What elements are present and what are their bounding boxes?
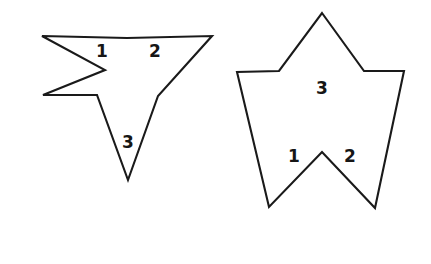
right-region-label-1: 1: [288, 146, 300, 166]
right-region-label-3: 3: [316, 78, 328, 98]
left-region-label-2: 2: [149, 41, 161, 61]
geometry-figure-canvas: 1 2 3 1 2 3: [0, 0, 431, 264]
left-region-label-1: 1: [96, 41, 108, 61]
left-region-label-3: 3: [122, 132, 134, 152]
right-region-label-2: 2: [344, 146, 356, 166]
